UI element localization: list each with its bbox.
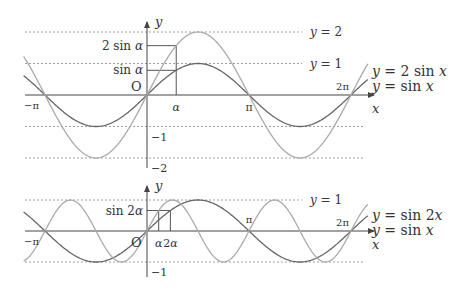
x-tick-label: −π	[24, 100, 39, 111]
bottom-graph: y = 1 y x O sin 2α−πα2απ2π−1y = sin 2xy …	[24, 178, 443, 279]
two-sin-alpha-label: 2 sin α	[102, 39, 143, 53]
x-tick-label: 2α	[163, 237, 178, 250]
top-x-axis-label: x	[372, 101, 380, 116]
x-tick-label: π	[245, 101, 252, 114]
legend-entry: y = 2 sin x	[371, 63, 447, 79]
y-tick-label: −1	[151, 266, 167, 279]
sin-two-alpha-label: sin 2α	[106, 204, 143, 218]
legend-entry: y = sin 2x	[371, 207, 443, 223]
legend-entry: y = sin x	[371, 222, 434, 238]
x-tick-label: −π	[24, 236, 39, 247]
top-y-axis-label: y	[154, 14, 163, 29]
reference-line-label: y = 2	[309, 25, 342, 39]
sin-alpha-label: sin α	[113, 63, 143, 77]
reference-line-label: y = 1	[309, 57, 342, 71]
x-tick-label: 2π	[336, 217, 349, 228]
x-tick-label: π	[246, 214, 253, 225]
x-tick-label: α	[173, 101, 181, 114]
bottom-origin-label: O	[131, 235, 142, 250]
top-graph: y = 2y = 1 y x O 2 sin αsin α−παπ2π−1−2y…	[24, 14, 447, 175]
sine-graphs-figure: y = 2y = 1 y x O 2 sin αsin α−παπ2π−1−2y…	[0, 0, 451, 291]
top-origin-label: O	[131, 79, 142, 94]
x-tick-label: α	[155, 237, 163, 250]
y-tick-label: −1	[151, 131, 167, 144]
y-tick-label: −2	[151, 162, 167, 175]
bottom-y-axis-label: y	[154, 178, 163, 193]
x-tick-label: 2π	[336, 81, 349, 92]
bottom-x-axis-label: x	[372, 237, 380, 252]
legend-entry: y = sin x	[371, 78, 434, 94]
reference-line-label: y = 1	[309, 193, 342, 207]
